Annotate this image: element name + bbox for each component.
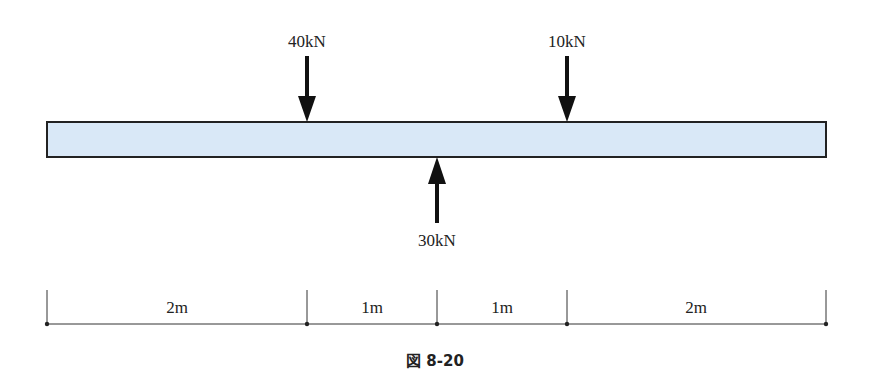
dimension-label: 1m <box>491 298 513 318</box>
beam-diagram <box>0 0 869 390</box>
dimension-label: 1m <box>361 298 383 318</box>
beam <box>47 122 826 157</box>
load-label-10kn: 10kN <box>548 32 586 52</box>
dimension-label: 2m <box>685 298 707 318</box>
load-arrow-10kn-icon <box>558 56 576 122</box>
load-arrow-40kn-icon <box>298 56 316 122</box>
load-label-40kn: 40kN <box>288 32 326 52</box>
figure-caption: 図 8-20 <box>406 349 464 370</box>
load-label-30kn: 30kN <box>418 231 456 251</box>
dimension-label: 2m <box>166 298 188 318</box>
load-arrow-30kn-icon <box>428 157 446 223</box>
dimension-line <box>45 290 828 326</box>
